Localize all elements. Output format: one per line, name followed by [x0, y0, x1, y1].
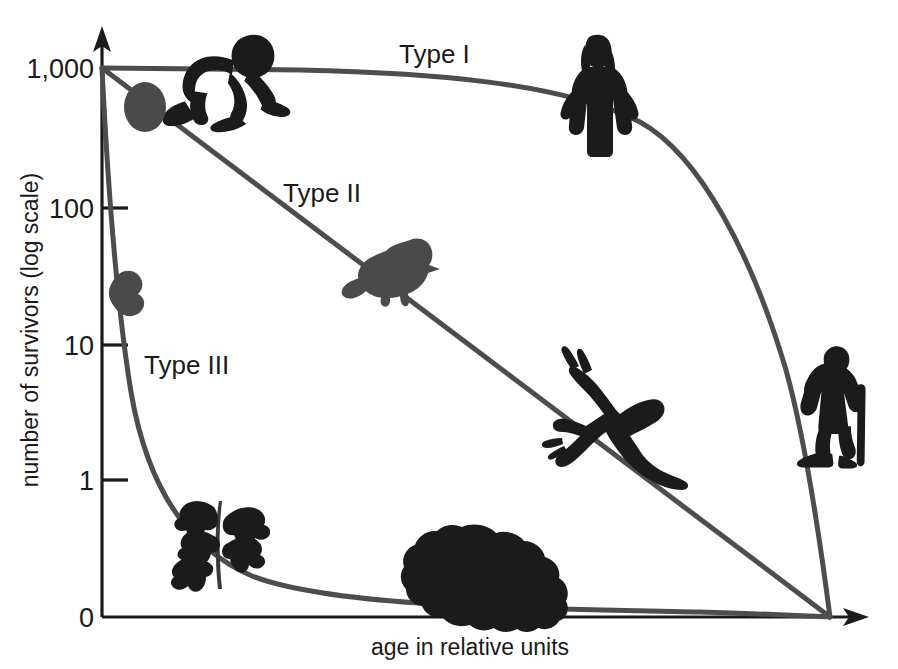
egg-icon	[124, 82, 166, 132]
curve-label-type-ii: Type II	[283, 178, 361, 208]
y-tick-label-1000: 1,000	[26, 54, 94, 84]
y-tick-label-0: 0	[79, 603, 94, 633]
y-tick-label-1: 1	[79, 466, 94, 496]
curve-label-type-i: Type I	[399, 39, 470, 69]
survivorship-curve-figure: 1,000 100 10 1 0 number of survivors (lo…	[0, 0, 898, 669]
y-axis-title: number of survivors (log scale)	[17, 173, 43, 487]
y-tick-label-100: 100	[49, 194, 94, 224]
elderly-person-with-cane-icon	[797, 346, 866, 468]
x-axis-title: age in relative units	[371, 634, 569, 660]
curve-label-type-iii: Type III	[144, 350, 229, 380]
y-tick-label-10: 10	[64, 331, 94, 361]
chart-canvas: 1,000 100 10 1 0 number of survivors (lo…	[0, 0, 898, 669]
woman-standing-icon	[560, 35, 638, 157]
quail-bird-icon	[342, 239, 440, 307]
baby-crawling-icon	[163, 35, 291, 132]
